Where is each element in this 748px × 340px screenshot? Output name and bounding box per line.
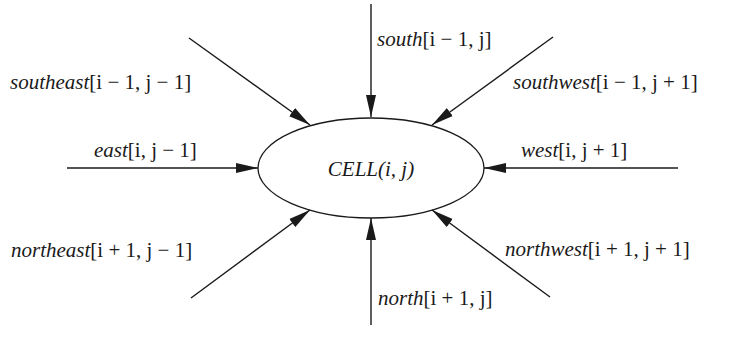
northeast-label: northeast[i + 1, j − 1] (11, 238, 192, 262)
northwest-label: northwest[i + 1, j + 1] (505, 237, 690, 261)
cell-label: CELL(i, j) (328, 157, 414, 181)
southeast-arrow (189, 38, 310, 125)
east-label: east[i, j − 1] (94, 138, 197, 162)
northeast-arrow (191, 210, 310, 298)
south-label: south[i − 1, j] (377, 27, 492, 51)
southwest-label: southwest[i − 1, j + 1] (513, 70, 698, 94)
north-label: north[i + 1, j] (378, 286, 493, 310)
southeast-label: southeast[i − 1, j − 1] (10, 70, 191, 94)
west-label: west[i, j + 1] (521, 138, 627, 162)
cell-diagram: CELL(i, j) south[i − 1, j] southeast[i −… (0, 0, 748, 340)
